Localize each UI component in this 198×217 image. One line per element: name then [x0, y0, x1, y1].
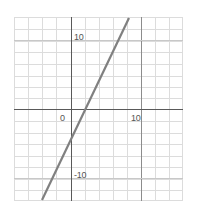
y-axis-tick-label-10: 10 — [74, 33, 84, 42]
graph-canvas — [0, 0, 198, 217]
origin-tick-label: 0 — [60, 114, 65, 123]
coordinate-graph: 10 -10 0 10 — [0, 0, 198, 217]
x-axis-tick-label-10: 10 — [131, 114, 141, 123]
y-axis-tick-label-neg10: -10 — [74, 171, 86, 180]
